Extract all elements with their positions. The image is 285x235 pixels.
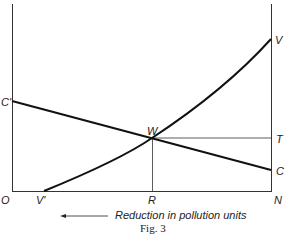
x-axis-label: Reduction in pollution units — [115, 209, 247, 221]
label-C-prime: C' — [1, 96, 12, 108]
label-N: N — [274, 194, 282, 206]
label-C: C — [276, 165, 284, 177]
diagram: O V' R N V C' W T C Reduction in polluti… — [0, 0, 285, 235]
label-V: V — [275, 34, 284, 46]
label-W: W — [147, 125, 159, 137]
label-V-prime: V' — [36, 194, 46, 206]
curve-C-prime-C — [12, 101, 271, 170]
label-R: R — [148, 194, 156, 206]
figure-caption: Fig. 3 — [140, 222, 166, 234]
label-O: O — [1, 194, 10, 206]
label-T: T — [276, 133, 284, 145]
arrowhead-icon — [60, 214, 66, 218]
curve-V-prime-V — [44, 39, 271, 191]
